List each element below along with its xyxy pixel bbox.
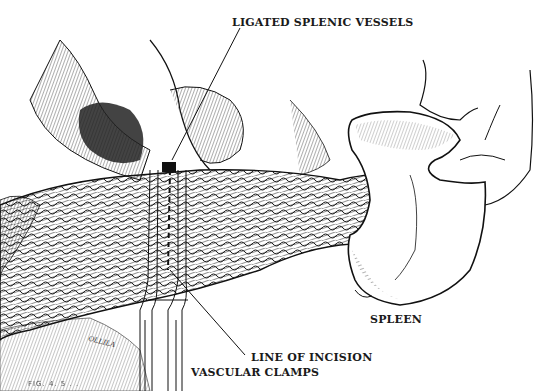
label-spleen: SPLEEN: [370, 313, 422, 326]
surgical-illustration: LIGATED SPLENIC VESSELS SPLEEN LINE OF I…: [0, 0, 546, 391]
label-vascular-clamps: VASCULAR CLAMPS: [191, 366, 319, 379]
figure-caption: FIG. 4. 5 . .: [28, 380, 79, 388]
pancreas-spleen-drawing: [0, 0, 546, 391]
label-line-of-incision: LINE OF INCISION: [251, 351, 372, 364]
spleen: [348, 112, 485, 305]
label-ligated-splenic-vessels: LIGATED SPLENIC VESSELS: [232, 16, 414, 29]
